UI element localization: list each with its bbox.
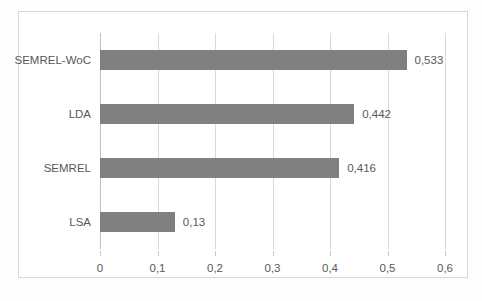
category-label-semrel: SEMREL xyxy=(44,158,100,178)
bar-value-lsa: 0,13 xyxy=(175,212,205,232)
x-tick-mark xyxy=(445,251,446,256)
bar-row: SEMREL 0,416 xyxy=(100,141,445,195)
x-tick-label-2: 0,2 xyxy=(207,262,223,274)
x-tick-mark xyxy=(330,251,331,256)
gridline-6 xyxy=(445,33,446,249)
category-label-semrel-woc: SEMREL-WoC xyxy=(15,50,100,70)
bars-layer: SEMREL-WoC 0,533 LDA 0,442 SEMREL 0,416 … xyxy=(100,33,445,249)
bar-row: SEMREL-WoC 0,533 xyxy=(100,33,445,87)
bar-row: LDA 0,442 xyxy=(100,87,445,141)
bar-value-lda: 0,442 xyxy=(354,104,391,124)
bar-semrel[interactable] xyxy=(100,158,339,178)
x-tick-label-4: 0,4 xyxy=(322,262,338,274)
bar-semrel-woc[interactable] xyxy=(100,50,407,70)
category-label-lda: LDA xyxy=(69,104,100,124)
category-label-lsa: LSA xyxy=(69,212,100,232)
bar-lda[interactable] xyxy=(100,104,354,124)
x-tick-mark xyxy=(215,251,216,256)
x-tick-label-6: 0,6 xyxy=(437,262,453,274)
chart-frame: SEMREL-WoC 0,533 LDA 0,442 SEMREL 0,416 … xyxy=(18,11,468,278)
bar-value-semrel-woc: 0,533 xyxy=(407,50,444,70)
x-tick-mark xyxy=(273,251,274,256)
x-tick-mark xyxy=(158,251,159,256)
chart-root: SEMREL-WoC 0,533 LDA 0,442 SEMREL 0,416 … xyxy=(0,0,482,301)
bar-value-semrel: 0,416 xyxy=(339,158,376,178)
bar-row: LSA 0,13 xyxy=(100,195,445,249)
x-tick-label-1: 0,1 xyxy=(150,262,166,274)
x-tick-label-0: 0 xyxy=(97,262,103,274)
bar-lsa[interactable] xyxy=(100,212,175,232)
x-tick-label-3: 0,3 xyxy=(265,262,281,274)
plot-area: SEMREL-WoC 0,533 LDA 0,442 SEMREL 0,416 … xyxy=(100,33,445,249)
x-tick-label-5: 0,5 xyxy=(380,262,396,274)
x-tick-mark xyxy=(100,251,101,256)
x-tick-mark xyxy=(388,251,389,256)
x-axis: 0 0,1 0,2 0,3 0,4 0,5 0,6 xyxy=(100,260,445,280)
